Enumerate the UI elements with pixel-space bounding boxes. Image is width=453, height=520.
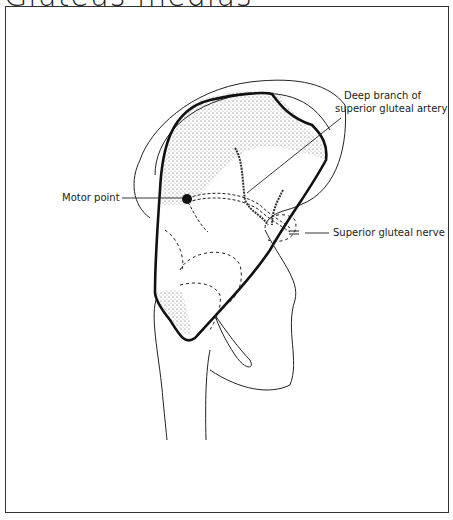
anatomical-drawing (0, 0, 453, 520)
artery-branch-2 (272, 190, 283, 225)
ilium-dashed (165, 230, 183, 270)
ischium-outline (210, 230, 296, 390)
nerve-branch-down (188, 202, 208, 232)
femur-right-outline (206, 350, 210, 440)
artery-label-line1: Deep branch of (344, 90, 421, 102)
obturator-foramen (215, 315, 251, 367)
motor-point-label: Motor point (62, 192, 120, 204)
artery-label-line2: superior gluteal artery (335, 103, 447, 115)
stippled-region (161, 91, 327, 205)
motor-point-dot (182, 194, 192, 204)
nerve-label: Superior gluteal nerve (333, 227, 445, 239)
artery-branch (235, 148, 268, 225)
femur-left-outline (154, 300, 167, 440)
